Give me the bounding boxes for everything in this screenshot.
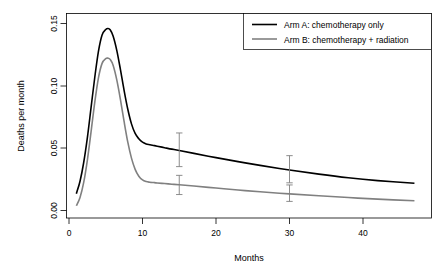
legend-label-arm-b: Arm B: chemotherapy + radiation — [284, 35, 409, 45]
chart-legend: Arm A: chemotherapy only Arm B: chemothe… — [244, 14, 432, 50]
y-tick-label: 0.15 — [49, 15, 59, 32]
y-tick-label: 0.05 — [49, 139, 59, 156]
x-tick-label: 10 — [138, 228, 148, 238]
x-tick-label: 30 — [285, 228, 295, 238]
y-tick-label: 0.10 — [49, 77, 59, 94]
x-axis-title: Months — [234, 253, 264, 263]
x-tick-label: 0 — [67, 228, 72, 238]
x-tick-label: 40 — [358, 228, 368, 238]
y-tick-label: 0.00 — [49, 202, 59, 219]
x-tick-label: 20 — [211, 228, 221, 238]
y-axis-title: Deaths per month — [16, 80, 26, 152]
survival-hazard-chart: 0.15 0.10 0.05 0.00 Deaths per month 0 1… — [0, 0, 448, 275]
legend-label-arm-a: Arm A: chemotherapy only — [284, 20, 384, 30]
